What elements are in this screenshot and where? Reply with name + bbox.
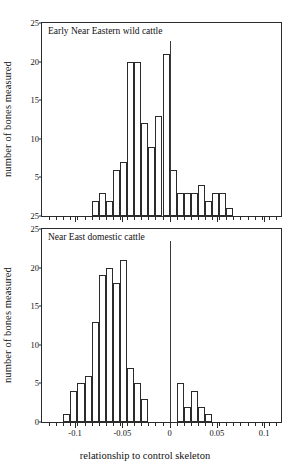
histogram-bar [148,147,155,216]
x-tick-mark-minor [262,216,263,220]
x-tick-mark-minor [198,216,199,220]
histogram-bar [106,268,113,422]
histogram-bar [141,123,148,216]
histogram-bar [63,414,70,422]
histogram-bar [106,201,113,216]
y-tick-mark [39,61,43,62]
x-tick-mark-minor [184,422,185,426]
x-tick-mark-minor [56,216,57,220]
x-tick-mark-minor [155,216,156,220]
x-tick-mark-minor [99,216,100,220]
y-tick-mark [39,344,43,345]
histogram-bar [205,414,212,422]
y-tick-label: 25 [31,18,40,28]
panel-title-wild-cattle: Early Near Eastern wild cattle [48,26,162,36]
x-tick-mark-minor [212,216,213,220]
y-tick-mark [39,138,43,139]
x-tick-mark-minor [163,216,164,220]
zero-reference-line [170,41,171,216]
x-tick-mark-minor [191,216,192,220]
x-tick-mark-minor [106,422,107,426]
histogram-bar [99,275,106,422]
x-tick-mark-minor [63,422,64,426]
y-tick-label: 5 [35,378,39,388]
histogram-bar [155,116,162,216]
x-tick-mark-major [170,216,171,222]
histogram-bar [212,193,219,216]
x-tick-mark-minor [77,216,78,220]
histogram-bar [77,383,84,422]
histogram-bar [134,62,141,216]
x-tick-mark-minor [177,216,178,220]
x-tick-mark-minor [191,422,192,426]
x-tick-mark-minor [226,216,227,220]
histogram-bar [219,193,226,216]
histogram-bar [184,407,191,422]
y-tick-mark [39,422,43,423]
y-tick-mark [39,383,43,384]
x-tick-mark-minor [113,216,114,220]
y-tick-label: 10 [31,134,40,144]
histogram-bar [92,322,99,422]
chart-panel-domestic-cattle: Near East domestic cattle 0510152025-0.1… [41,228,282,423]
x-tick-mark-minor [219,216,220,220]
histogram-bar [113,283,120,422]
x-tick-label: 0.1 [259,428,270,438]
x-tick-mark-minor [255,422,256,426]
histogram-bar [141,399,148,422]
y-tick-label: 10 [31,340,40,350]
x-tick-mark-minor [262,422,263,426]
y-tick-mark [39,100,43,101]
y-axis-label-top: number of bones measured [2,26,13,212]
x-tick-mark-minor [49,422,50,426]
x-tick-mark-minor [127,422,128,426]
histogram-bar [198,407,205,422]
x-tick-mark-major [170,422,171,428]
x-tick-mark-minor [134,216,135,220]
y-tick-mark [39,23,43,24]
y-tick-label: 0 [35,417,39,427]
x-tick-mark-minor [148,216,149,220]
histogram-bar [120,260,127,422]
panel-title-domestic-cattle: Near East domestic cattle [48,232,145,242]
y-tick-label: 20 [31,263,40,273]
x-tick-mark-minor [134,422,135,426]
y-tick-label: 15 [31,95,40,105]
histogram-bar [163,54,170,216]
y-tick-label: 20 [31,57,40,67]
x-tick-mark-minor [269,422,270,426]
x-tick-mark-major [122,422,123,428]
x-tick-mark-minor [120,216,121,220]
y-tick-label: 15 [31,301,40,311]
histogram-bar [177,193,184,216]
x-tick-mark-minor [226,422,227,426]
x-tick-mark-minor [163,422,164,426]
histogram-bar [127,368,134,422]
histogram-bar [70,391,77,422]
x-tick-mark-minor [127,216,128,220]
x-tick-mark-minor [248,422,249,426]
y-tick-mark [39,229,43,230]
histogram-bar [92,201,99,216]
x-tick-mark-minor [148,422,149,426]
x-tick-mark-major [75,216,76,222]
y-tick-mark [39,177,43,178]
x-tick-mark-minor [205,216,206,220]
y-tick-label: 25 [31,211,40,221]
histogram-bar [191,391,198,422]
histogram-bar [85,376,92,422]
x-tick-mark-major [264,216,265,222]
x-tick-mark-minor [276,422,277,426]
x-tick-mark-minor [92,216,93,220]
y-tick-mark [39,216,43,217]
x-tick-mark-minor [276,216,277,220]
histogram-bar [177,383,184,422]
histogram-bar [226,208,233,216]
x-tick-mark-major [122,216,123,222]
x-tick-mark-minor [233,216,234,220]
x-axis-title: relationship to control skeleton [0,450,290,461]
x-tick-mark-minor [63,216,64,220]
x-tick-mark-minor [85,216,86,220]
x-tick-mark-major [75,422,76,428]
histogram-bar [205,201,212,216]
